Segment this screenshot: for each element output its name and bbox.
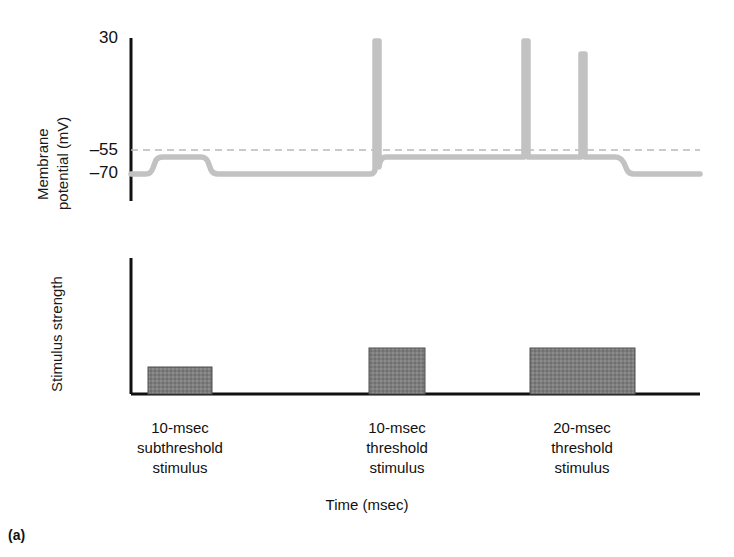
panel-label: (a): [8, 527, 25, 543]
stimulus-label-1: 10-msec subthreshold stimulus: [110, 418, 250, 478]
stimulus-label-2-line2: threshold: [327, 438, 467, 458]
stimulus-label-3-line3: stimulus: [512, 458, 652, 478]
stimulus-bar-1: [148, 367, 212, 394]
stimulus-label-2-line3: stimulus: [327, 458, 467, 478]
stimulus-label-1-line1: 10-msec: [110, 418, 250, 438]
stimulus-label-2-line1: 10-msec: [327, 418, 467, 438]
figure-panel-a: Membrane potential (mV) 30 –55 –70 Stimu…: [0, 0, 734, 557]
stimulus-label-2: 10-msec threshold stimulus: [327, 418, 467, 478]
stimulus-label-3: 20-msec threshold stimulus: [512, 418, 652, 478]
stimulus-label-1-line3: stimulus: [110, 458, 250, 478]
stimulus-label-3-line1: 20-msec: [512, 418, 652, 438]
stimulus-label-3-line2: threshold: [512, 438, 652, 458]
stimulus-bar-3: [530, 348, 635, 394]
stimulus-bar-2: [369, 348, 425, 394]
xaxis-title: Time (msec): [0, 496, 734, 513]
stimulus-label-1-line2: subthreshold: [110, 438, 250, 458]
